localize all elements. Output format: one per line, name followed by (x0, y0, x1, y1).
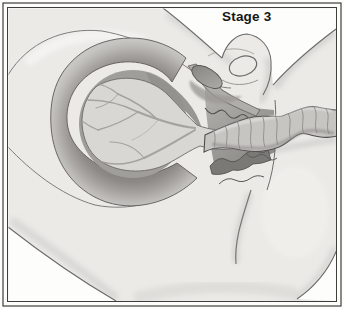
medical-figure-stage3: Stage 3 (0, 0, 344, 309)
stage-label: Stage 3 (205, 9, 289, 24)
illustration-canvas (0, 0, 344, 309)
